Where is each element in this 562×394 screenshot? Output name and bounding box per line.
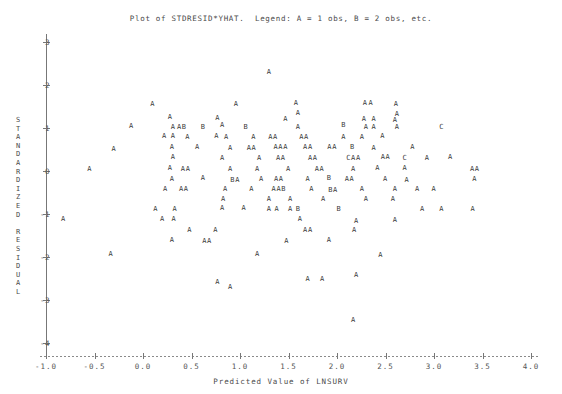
- data-point-marker: A: [351, 316, 356, 323]
- x-axis-tick-mark: [46, 353, 47, 359]
- data-point-marker: A: [402, 165, 407, 172]
- data-point-marker: AA: [308, 154, 318, 161]
- y-axis-title-char: D: [16, 211, 20, 220]
- x-axis-tick-label: -0.5: [73, 362, 117, 371]
- data-point-marker: A: [215, 278, 220, 285]
- data-point-marker: A: [288, 205, 293, 212]
- data-point-marker: A: [415, 186, 420, 193]
- plot-title: Plot of STDRESID*YHAT. Legend: A = 1 obs…: [0, 14, 562, 23]
- x-axis-tick-label: 0.0: [121, 362, 165, 371]
- data-point-marker: A: [369, 100, 374, 107]
- y-axis-tick-label: 2: [28, 81, 50, 90]
- y-axis-tick: -1: [0, 214, 50, 215]
- y-axis-tick: 3: [0, 42, 50, 43]
- x-axis-tick-mark: [386, 353, 387, 359]
- data-point-marker: A: [284, 237, 289, 244]
- data-point-marker: A: [286, 165, 291, 172]
- data-point-marker: A: [187, 227, 192, 234]
- y-axis-title-char: S: [16, 245, 20, 254]
- data-point-marker: A: [220, 121, 225, 128]
- data-point-marker: A: [259, 175, 264, 182]
- data-point-marker: A: [170, 236, 175, 243]
- data-point-marker: A: [267, 195, 272, 202]
- data-point-marker: AA: [303, 227, 313, 234]
- x-axis-tick-label: 3.0: [412, 362, 456, 371]
- data-point-marker: AA: [315, 165, 325, 172]
- x-axis-tick-label: -1.0: [24, 362, 68, 371]
- data-point-marker: A: [410, 144, 415, 151]
- data-point-marker: A: [150, 101, 155, 108]
- data-point-marker: A: [371, 123, 376, 130]
- data-point-marker: A: [354, 272, 359, 279]
- data-point-marker: A: [220, 154, 225, 161]
- y-axis-title-char: T: [16, 125, 20, 134]
- data-point-marker: AA: [303, 143, 313, 150]
- data-point-marker: A: [274, 205, 279, 212]
- data-point-marker: A: [351, 165, 356, 172]
- data-point-marker: A: [362, 115, 367, 122]
- data-point-marker: A: [249, 186, 254, 193]
- y-axis-title-char: Z: [16, 193, 20, 202]
- data-point-marker: A: [472, 175, 477, 182]
- data-point-marker: A: [163, 186, 168, 193]
- data-point-marker: CAA: [346, 155, 360, 162]
- x-axis-tick-label: 1.0: [218, 362, 262, 371]
- data-point-marker: A: [375, 165, 380, 172]
- y-axis-title-char: E: [16, 202, 20, 211]
- y-axis-title-char: R: [16, 168, 20, 177]
- data-point-marker: A: [172, 216, 177, 223]
- data-point-marker: A: [404, 176, 409, 183]
- data-point-marker: B: [327, 174, 332, 181]
- data-point-marker: A: [220, 204, 225, 211]
- data-point-marker: A: [228, 165, 233, 172]
- data-point-marker: C: [439, 124, 444, 131]
- data-point-marker: A: [171, 132, 176, 139]
- data-point-marker: A: [170, 175, 175, 182]
- scatter-plot-figure: Plot of STDRESID*YHAT. Legend: A = 1 obs…: [0, 0, 562, 394]
- x-axis-tick-label: 4.0: [509, 362, 553, 371]
- data-point-marker: A: [448, 154, 453, 161]
- data-point-marker: A: [171, 123, 176, 130]
- data-point-marker: A: [425, 155, 430, 162]
- data-point-marker: A: [153, 205, 158, 212]
- data-point-marker: A: [195, 144, 200, 151]
- y-axis-tick: -4: [0, 343, 50, 344]
- data-point-marker: A: [283, 115, 288, 122]
- data-point-marker: AAA: [274, 143, 288, 150]
- y-axis-tick-label: 0: [28, 167, 50, 176]
- data-point-marker: AA: [274, 175, 284, 182]
- data-point-marker: A: [320, 275, 325, 282]
- data-point-marker: A: [168, 165, 173, 172]
- data-point-marker: A: [439, 205, 444, 212]
- data-point-marker: BA: [230, 176, 240, 183]
- data-point-marker: A: [213, 227, 218, 234]
- data-point-marker: AA: [276, 155, 286, 162]
- y-axis-tick: -2: [0, 257, 50, 258]
- y-axis-title-char: A: [16, 159, 20, 168]
- x-axis-tick-label: 0.5: [170, 362, 214, 371]
- data-point-marker: A: [383, 175, 388, 182]
- data-point-marker: A: [255, 165, 260, 172]
- y-axis-tick: 2: [0, 85, 50, 86]
- data-point-marker: A: [109, 251, 114, 258]
- data-point-marker: AA: [299, 133, 309, 140]
- y-axis-tick-label: 3: [28, 38, 50, 47]
- x-axis-tick-mark: [240, 353, 241, 359]
- data-point-marker: AA: [181, 165, 191, 172]
- data-point-marker: A: [224, 133, 229, 140]
- data-point-marker: B: [296, 205, 301, 212]
- y-axis-tick-label: 1: [28, 124, 50, 133]
- data-point-marker: A: [360, 186, 365, 193]
- x-axis-tick-mark: [143, 353, 144, 359]
- data-point-marker: A: [160, 216, 165, 223]
- y-axis-title-char: S: [16, 116, 20, 125]
- data-point-marker: A: [162, 132, 167, 139]
- data-point-marker: A: [294, 100, 299, 107]
- y-axis-title-char: I: [16, 254, 20, 263]
- y-axis-title-char: A: [16, 133, 20, 142]
- y-axis-title-char: A: [16, 279, 20, 288]
- data-point-marker: B: [337, 205, 342, 212]
- data-point-marker: A: [364, 195, 369, 202]
- data-point-marker: A: [432, 186, 437, 193]
- data-point-marker: A: [173, 205, 178, 212]
